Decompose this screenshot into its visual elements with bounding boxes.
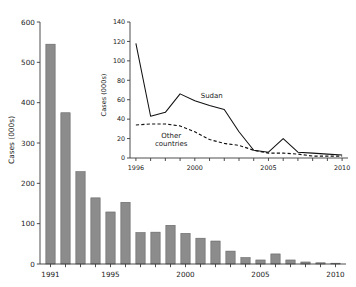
bar-1991 xyxy=(46,44,55,264)
main-x-tick-label-1995: 1995 xyxy=(101,270,119,279)
main-y-tick-label-200: 200 xyxy=(21,179,35,188)
bar-2005 xyxy=(256,260,265,264)
main-x-tick-label-1991: 1991 xyxy=(41,270,59,279)
bar-1992 xyxy=(61,113,70,264)
inset-y-tick-label-120: 120 xyxy=(113,38,125,46)
figure-container: 010020030040050060019911995200020052010 … xyxy=(0,0,356,287)
bar-2003 xyxy=(226,251,235,264)
main-x-tick-label-2010: 2010 xyxy=(326,270,345,279)
bar-2004 xyxy=(241,258,250,264)
bar-1999 xyxy=(166,225,175,264)
main-y-tick-label-100: 100 xyxy=(21,219,35,228)
main-y-tick-label-500: 500 xyxy=(21,58,35,67)
bar-2000 xyxy=(181,233,190,264)
bar-2007 xyxy=(286,260,295,264)
inset-line-chart: 0204060801001201401996200020052010 Cases… xyxy=(96,12,354,172)
main-y-tick-label-400: 400 xyxy=(21,98,35,107)
bar-1996 xyxy=(121,202,130,264)
inset-x-tick-label-1996: 1996 xyxy=(128,164,144,172)
bar-1993 xyxy=(76,172,85,264)
inset-y-tick-label-20: 20 xyxy=(117,135,125,143)
inset-x-tick-label-2000: 2000 xyxy=(187,164,203,172)
inset-y-tick-label-60: 60 xyxy=(117,96,125,104)
series-label-other-countries-line2: countries xyxy=(155,140,188,148)
bar-1998 xyxy=(151,232,160,264)
inset-y-axis-title: Cases (000s) xyxy=(100,74,108,117)
bar-1997 xyxy=(136,233,145,264)
inset-y-tick-label-0: 0 xyxy=(121,154,125,162)
inset-y-tick-label-140: 140 xyxy=(113,18,125,26)
bar-2002 xyxy=(211,241,220,264)
inset-background xyxy=(96,12,354,164)
inset-x-tick-label-2005: 2005 xyxy=(260,164,276,172)
main-y-axis-title: Cases (000s) xyxy=(7,116,16,164)
bar-2006 xyxy=(271,254,280,264)
main-x-tick-label-2005: 2005 xyxy=(251,270,269,279)
bar-2001 xyxy=(196,238,205,264)
inset-y-tick-label-40: 40 xyxy=(117,115,125,123)
main-y-tick-label-0: 0 xyxy=(30,260,35,269)
series-label-sudan: Sudan xyxy=(201,92,223,100)
inset-y-tick-label-80: 80 xyxy=(117,77,125,85)
inset-y-tick-label-100: 100 xyxy=(113,57,125,65)
chart-svg: 010020030040050060019911995200020052010 … xyxy=(0,0,356,287)
series-label-other-countries-line1: Other xyxy=(161,132,181,140)
main-y-tick-label-600: 600 xyxy=(21,18,35,27)
main-y-tick-label-300: 300 xyxy=(21,139,35,148)
bar-1994 xyxy=(91,198,100,264)
main-x-tick-label-2000: 2000 xyxy=(176,270,195,279)
bar-1995 xyxy=(106,212,115,264)
inset-x-tick-label-2010: 2010 xyxy=(334,164,350,172)
